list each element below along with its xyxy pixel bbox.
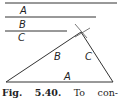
caption-number: 5.40. — [35, 87, 61, 98]
caption-word-1: To — [74, 87, 85, 98]
arc-mark-2 — [75, 28, 90, 37]
segment-b-label: B — [19, 19, 26, 30]
triangle-side-a-label: A — [63, 71, 71, 82]
caption-fig: Fig. — [2, 87, 22, 98]
triangle-construction-diagram: A B C B C A — [0, 0, 120, 100]
segment-a-label: A — [19, 5, 27, 16]
segment-c-label: C — [18, 32, 25, 43]
figure-caption: Fig. 5.40. To con- — [2, 87, 118, 98]
triangle-side-b-label: B — [54, 51, 61, 62]
caption-word-2: con- — [98, 87, 118, 98]
triangle-side-c-label: C — [85, 51, 92, 62]
